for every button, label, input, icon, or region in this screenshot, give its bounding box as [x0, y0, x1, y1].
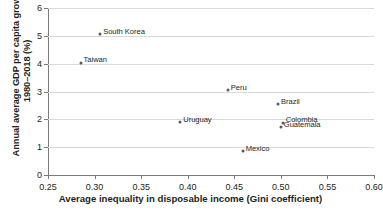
x-tick-mark: [188, 175, 189, 179]
x-tick-mark: [95, 175, 96, 179]
data-point[interactable]: [277, 103, 280, 106]
data-point[interactable]: [79, 61, 82, 64]
data-point-label: Mexico: [246, 143, 270, 152]
data-point-label: Uruguay: [183, 114, 211, 123]
gridline-horizontal: [48, 36, 374, 37]
x-tick-mark: [234, 175, 235, 179]
y-tick-mark: [44, 147, 48, 148]
x-axis-title: Average inequality in disposable income …: [0, 193, 381, 204]
y-axis-title: Annual average GDP per capita growth, 19…: [9, 0, 35, 156]
y-tick-mark: [44, 64, 48, 65]
data-point[interactable]: [279, 126, 282, 129]
y-tick-mark: [44, 92, 48, 93]
gridline-horizontal: [48, 92, 374, 93]
y-tick-label: 6: [37, 3, 42, 13]
gridline-horizontal: [48, 147, 374, 148]
data-point-label: Guatemala: [284, 119, 321, 128]
plot-area: 01234560.250.300.350.400.450.500.550.60S…: [48, 8, 374, 175]
y-tick-mark: [44, 8, 48, 9]
x-tick-mark: [281, 175, 282, 179]
y-tick-mark: [44, 36, 48, 37]
x-tick-mark: [374, 175, 375, 179]
y-tick-label: 0: [37, 170, 42, 180]
gridline-horizontal: [48, 8, 374, 9]
y-tick-label: 4: [37, 59, 42, 69]
data-point-label: Peru: [231, 82, 247, 91]
x-tick-label: 0.40: [179, 182, 197, 192]
data-point[interactable]: [99, 33, 102, 36]
data-point-label: Brazil: [281, 96, 300, 105]
y-tick-label: 5: [37, 31, 42, 41]
y-tick-label: 3: [37, 87, 42, 97]
x-tick-label: 0.60: [365, 182, 383, 192]
x-tick-label: 0.35: [132, 182, 150, 192]
y-tick-mark: [44, 119, 48, 120]
y-axis-title-line-2: 1980–2018 (%): [22, 40, 34, 102]
data-point-label: Taiwan: [84, 55, 107, 64]
x-axis-line: [48, 175, 375, 176]
x-tick-label: 0.55: [319, 182, 337, 192]
data-point[interactable]: [241, 150, 244, 153]
x-tick-label: 0.30: [86, 182, 104, 192]
data-point-label: South Korea: [103, 26, 145, 35]
x-tick-label: 0.50: [272, 182, 290, 192]
x-tick-label: 0.25: [39, 182, 57, 192]
y-tick-label: 1: [37, 142, 42, 152]
x-tick-mark: [48, 175, 49, 179]
x-tick-label: 0.45: [226, 182, 244, 192]
y-tick-label: 2: [37, 114, 42, 124]
x-tick-mark: [141, 175, 142, 179]
data-point[interactable]: [179, 121, 182, 124]
data-point[interactable]: [226, 89, 229, 92]
x-tick-mark: [327, 175, 328, 179]
y-axis-title-line-1: Annual average GDP per capita growth,: [11, 0, 23, 156]
